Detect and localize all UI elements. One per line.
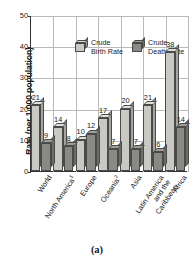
bar-value-label: 21 (32, 94, 40, 101)
y-tick-label: 20 (20, 106, 28, 113)
bar-death: 9 (41, 143, 51, 171)
bar-death: 6 (153, 152, 163, 171)
bar-value-label: 14 (177, 116, 185, 123)
figure-crude-birth-death-rates: Rate (per 1,000 population) 01020304050 … (0, 0, 194, 269)
bar-birth: 21 (143, 105, 153, 171)
bar-group: 148 (53, 15, 75, 171)
plot-area: 01020304050 21914810121772072163814 Crud… (30, 16, 187, 172)
legend-swatch-death-icon (132, 41, 145, 52)
y-tick-label: 10 (20, 137, 28, 144)
legend-label-birth: Crude Birth Rate (91, 38, 123, 57)
bar-value-label: 7 (111, 138, 115, 145)
bar-value-label: 9 (44, 132, 48, 139)
bar-birth: 21 (31, 105, 41, 171)
bar-death: 14 (176, 127, 186, 171)
legend-swatch-birth-icon (75, 41, 88, 52)
bar-value-label: 6 (156, 141, 160, 148)
bar-death: 7 (108, 149, 118, 171)
bar-value-label: 10 (77, 128, 85, 135)
bar-death: 12 (86, 134, 96, 171)
figure-caption: (a) (0, 244, 194, 255)
bar-value-label: 17 (99, 107, 107, 114)
bar-value-label: 38 (166, 41, 174, 48)
bar-value-label: 20 (121, 97, 129, 104)
bar-death: 7 (131, 149, 141, 171)
y-tick-label: 40 (20, 43, 28, 50)
bar-value-label: 14 (54, 116, 62, 123)
bar-group: 219 (31, 15, 53, 171)
y-tick-label: 50 (20, 12, 28, 19)
bar-value-label: 12 (87, 122, 95, 129)
legend-item-crude-birth-rate: Crude Birth Rate (75, 38, 123, 64)
bar-value-label: 7 (134, 138, 138, 145)
y-tick-label: 30 (20, 75, 28, 82)
bar-death: 8 (64, 146, 74, 171)
bar-value-label: 21 (144, 94, 152, 101)
bar-value-label: 8 (66, 135, 70, 142)
x-axis-labels: WorldNorth America1EuropeOceania2AsiaLat… (30, 174, 187, 244)
y-tick-mark (28, 172, 31, 173)
